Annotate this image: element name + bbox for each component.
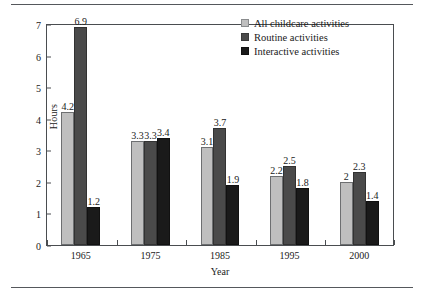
top-divider-rule (11, 4, 413, 5)
legend-item[interactable]: All childcare activities (241, 16, 349, 30)
bar-value-label: 2.2 (270, 165, 283, 176)
bar-group: 3.13.71.9 (201, 24, 240, 245)
bar-value-label: 1.2 (88, 196, 101, 207)
bar[interactable]: 3.4 (157, 138, 170, 245)
x-tick-label: 2000 (349, 250, 369, 261)
legend-item-label: All childcare activities (254, 18, 349, 29)
bar[interactable]: 2.5 (283, 166, 296, 245)
bottom-divider-rule (11, 287, 413, 288)
bar-value-label: 1.4 (366, 190, 379, 201)
x-tick-label: 1985 (210, 250, 230, 261)
bar[interactable]: 1.4 (366, 201, 379, 245)
bar[interactable]: 1.2 (87, 207, 100, 245)
legend-swatch-icon (241, 33, 249, 41)
bar-value-label: 3.7 (214, 117, 227, 128)
bar[interactable]: 2 (340, 182, 353, 245)
x-tick-label: 1995 (280, 250, 300, 261)
x-tick-label: 1975 (140, 250, 160, 261)
bar-value-label: 6.9 (75, 16, 88, 27)
bar[interactable]: 3.1 (201, 147, 214, 245)
bar-value-label: 3.3 (131, 130, 144, 141)
bar-value-label: 2.3 (353, 161, 366, 172)
bar[interactable]: 1.8 (296, 188, 309, 245)
bar-value-label: 2 (344, 171, 349, 182)
legend-swatch-icon (241, 47, 249, 55)
bar[interactable]: 6.9 (74, 27, 87, 245)
x-axis-title: Year (46, 266, 394, 277)
bar-group: 3.33.33.4 (131, 24, 170, 245)
bar[interactable]: 1.9 (226, 185, 239, 245)
chart-figure: Hours 01234567 4.26.91.23.33.33.43.13.71… (0, 0, 423, 298)
bar[interactable]: 3.3 (131, 141, 144, 245)
bar[interactable]: 2.2 (270, 176, 283, 245)
bar-value-label: 1.9 (227, 174, 240, 185)
legend-item[interactable]: Routine activities (241, 30, 349, 44)
bar[interactable]: 2.3 (353, 172, 366, 245)
bar[interactable]: 3.3 (144, 141, 157, 245)
bar-value-label: 3.4 (157, 127, 170, 138)
chart-legend: All childcare activitiesRoutine activiti… (238, 14, 352, 60)
bar-value-label: 3.1 (201, 136, 214, 147)
legend-item[interactable]: Interactive activities (241, 44, 349, 58)
bar[interactable]: 3.7 (213, 128, 226, 245)
legend-item-label: Interactive activities (254, 46, 339, 57)
bar-group: 4.26.91.2 (61, 24, 100, 245)
bar-value-label: 3.3 (144, 130, 157, 141)
bar[interactable]: 4.2 (61, 112, 74, 245)
x-tick-label: 1965 (71, 250, 91, 261)
x-tick-mark (394, 240, 395, 245)
bar-value-label: 2.5 (283, 155, 296, 166)
legend-swatch-icon (241, 19, 249, 27)
bar-value-label: 1.8 (296, 177, 309, 188)
bar-value-label: 4.2 (62, 101, 75, 112)
y-tick-mark (47, 246, 51, 247)
legend-item-label: Routine activities (254, 32, 328, 43)
